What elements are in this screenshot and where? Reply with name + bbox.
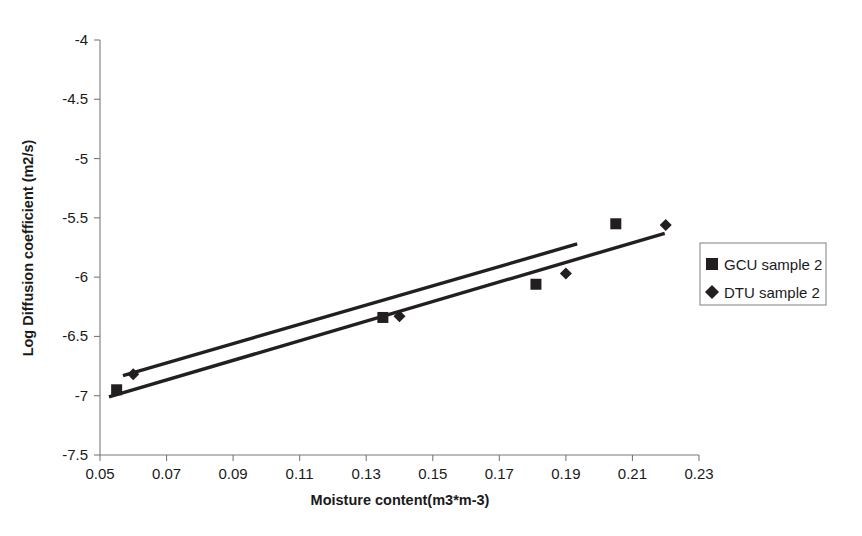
- x-tick-label: 0.05: [85, 465, 114, 482]
- x-tick-label: 0.19: [551, 465, 580, 482]
- data-point-gcu-sample-2: [610, 218, 621, 229]
- chart-figure: 0.050.070.090.110.130.150.170.190.210.23…: [0, 0, 862, 536]
- x-tick-label: 0.17: [485, 465, 514, 482]
- chart-legend: GCU sample 2DTU sample 2: [700, 243, 826, 305]
- legend-label-dtu-sample-2: DTU sample 2: [724, 284, 820, 301]
- y-tick-label: -6.5: [62, 327, 88, 344]
- x-tick-label: 0.13: [352, 465, 381, 482]
- x-tick-label: 0.15: [418, 465, 447, 482]
- x-axis-title: Moisture content(m3*m-3): [311, 492, 490, 508]
- plot-area-background: [100, 40, 699, 455]
- y-tick-label: -5.5: [62, 209, 88, 226]
- data-point-gcu-sample-2: [530, 279, 541, 290]
- x-tick-label: 0.21: [618, 465, 647, 482]
- x-tick-label: 0.09: [219, 465, 248, 482]
- x-tick-label: 0.11: [286, 465, 314, 482]
- x-tick-label: 0.07: [152, 465, 181, 482]
- legend-label-gcu-sample-2: GCU sample 2: [724, 256, 822, 273]
- y-tick-label: -4.5: [62, 90, 88, 107]
- y-tick-label: -4: [75, 31, 88, 48]
- y-tick-label: -5: [75, 150, 88, 167]
- y-tick-label: -6: [75, 268, 88, 285]
- y-tick-label: -7: [75, 387, 88, 404]
- square-marker-icon: [706, 258, 718, 270]
- data-point-gcu-sample-2: [111, 384, 122, 395]
- y-tick-label: -7.5: [62, 446, 88, 463]
- scatter-chart: 0.050.070.090.110.130.150.170.190.210.23…: [0, 0, 862, 536]
- y-axis-title: Log Diffusion coefficient (m2/s): [20, 139, 36, 356]
- data-point-gcu-sample-2: [377, 312, 388, 323]
- x-tick-label: 0.23: [684, 465, 713, 482]
